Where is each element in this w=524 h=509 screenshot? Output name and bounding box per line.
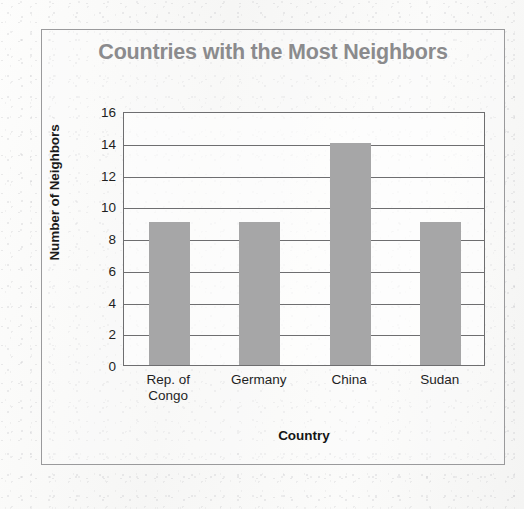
- x-tick-label: Sudan: [388, 372, 492, 388]
- y-tick-label: 6: [88, 263, 116, 278]
- y-axis-tick-labels: 0246810121416: [88, 112, 116, 366]
- y-tick-label: 12: [88, 168, 116, 183]
- bar: [149, 222, 190, 365]
- bar: [239, 222, 280, 365]
- y-tick-label: 14: [88, 136, 116, 151]
- x-axis-tick-labels: Rep. ofCongoGermanyChinaSudan: [123, 372, 485, 412]
- x-tick-label-line: China: [297, 372, 401, 388]
- x-tick-label: Germany: [207, 372, 311, 388]
- gridline: [124, 177, 484, 178]
- bar: [420, 222, 461, 365]
- gridline: [124, 145, 484, 146]
- plot-area-wrapper: [123, 112, 485, 366]
- x-tick-label: Rep. ofCongo: [116, 372, 220, 404]
- x-tick-label-line: Rep. of: [116, 372, 220, 388]
- y-tick-label: 4: [88, 295, 116, 310]
- plot-area: [123, 112, 485, 366]
- x-tick-label-line: Sudan: [388, 372, 492, 388]
- x-tick-label-line: Congo: [116, 388, 220, 404]
- y-axis-title: Number of Neighbors: [47, 113, 62, 273]
- chart-title: Countries with the Most Neighbors: [41, 40, 505, 65]
- y-tick-label: 0: [88, 359, 116, 374]
- y-tick-label: 16: [88, 105, 116, 120]
- x-tick-label-line: Germany: [207, 372, 311, 388]
- bar: [330, 143, 371, 365]
- y-tick-label: 8: [88, 232, 116, 247]
- x-axis-title: Country: [123, 428, 485, 443]
- x-tick-label: China: [297, 372, 401, 388]
- y-tick-label: 10: [88, 200, 116, 215]
- y-tick-label: 2: [88, 327, 116, 342]
- gridline: [124, 208, 484, 209]
